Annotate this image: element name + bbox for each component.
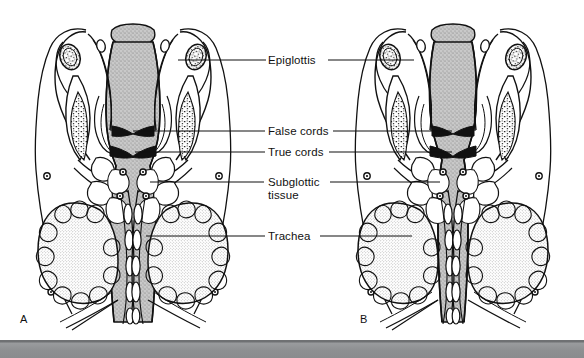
panel-letter-a: A xyxy=(20,313,27,325)
figure-canvas: Epiglottis False cords True cords Subglo… xyxy=(0,0,584,358)
footer-band xyxy=(0,340,584,358)
panel-letter-b: B xyxy=(360,313,367,325)
callout-label-epiglottis: Epiglottis xyxy=(268,54,316,67)
callout-label-subglottic-tissue-line2: tissue xyxy=(268,189,299,202)
callout-label-trachea: Trachea xyxy=(268,230,310,243)
callout-label-true-cords: True cords xyxy=(268,146,324,159)
panel-a xyxy=(35,24,231,328)
panel-b xyxy=(355,24,551,328)
callout-label-false-cords: False cords xyxy=(268,125,329,138)
callout-label-subglottic-tissue-line1: Subglottic xyxy=(268,176,320,189)
